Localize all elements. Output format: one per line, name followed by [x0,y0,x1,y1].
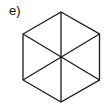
hexagon-diagonals [23,12,100,102]
hexagon-diagram [0,0,110,105]
